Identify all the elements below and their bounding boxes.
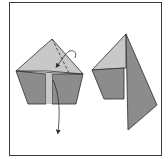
- right-triangle-flap: [126, 34, 157, 130]
- center-gap: [46, 72, 52, 104]
- top-flap: [16, 39, 83, 74]
- left-figure: [16, 39, 83, 132]
- right-square-flap: [92, 68, 124, 99]
- origami-diagram: [0, 0, 168, 159]
- body-left-panel: [16, 71, 46, 104]
- right-figure: [92, 34, 157, 130]
- right-top-flap: [92, 34, 126, 70]
